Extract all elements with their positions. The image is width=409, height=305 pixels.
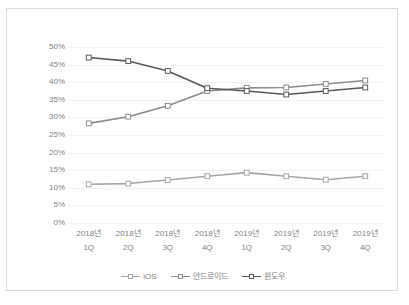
legend-line-marker-icon — [121, 273, 140, 280]
y-axis-tick-label: 35% — [11, 96, 65, 104]
data-point-marker — [86, 182, 91, 187]
gridline — [69, 223, 385, 224]
x-axis-tick-label: 2019년3Q — [304, 227, 348, 255]
x-tick-year: 2018년 — [67, 227, 111, 241]
y-axis-tick-label: 50% — [11, 43, 65, 51]
data-point-marker — [126, 59, 131, 64]
data-point-marker — [86, 121, 91, 126]
x-tick-quarter: 2Q — [106, 241, 150, 255]
data-point-marker — [165, 178, 170, 183]
legend-item-1[interactable]: iOS — [121, 272, 156, 281]
data-point-marker — [323, 177, 328, 182]
data-point-marker — [284, 92, 289, 97]
data-point-marker — [323, 82, 328, 87]
data-point-marker — [363, 174, 368, 179]
x-tick-year: 2019년 — [304, 227, 348, 241]
chart-plot-wrapper: 50%45%40%35%30%25%20%15%10%5%0% 2018년1Q2… — [7, 9, 399, 292]
series-1 — [86, 170, 367, 186]
data-point-marker — [284, 85, 289, 90]
x-tick-quarter: 3Q — [304, 241, 348, 255]
chart-series-layer — [69, 47, 385, 223]
y-axis-tick-label: 40% — [11, 78, 65, 86]
x-tick-year: 2019년 — [264, 227, 308, 241]
y-axis-tick-label: 10% — [11, 184, 65, 192]
legend-line-marker-icon — [242, 273, 261, 280]
data-point-marker — [86, 55, 91, 60]
x-tick-year: 2019년 — [225, 227, 269, 241]
legend-item-2[interactable]: 안드로이드 — [171, 272, 228, 281]
data-point-marker — [165, 69, 170, 74]
x-tick-quarter: 4Q — [343, 241, 387, 255]
x-tick-quarter: 1Q — [67, 241, 111, 255]
legend-line-marker-icon — [171, 273, 190, 280]
chart-frame: 50%45%40%35%30%25%20%15%10%5%0% 2018년1Q2… — [6, 8, 398, 291]
x-axis-tick-labels: 2018년1Q2018년2Q2018년3Q2018년4Q2019년1Q2019년… — [69, 227, 385, 265]
x-tick-year: 2018년 — [185, 227, 229, 241]
data-point-marker — [126, 114, 131, 119]
data-point-marker — [126, 181, 131, 186]
chart-legend: iOS안드로이드윈도우 — [7, 267, 399, 285]
x-axis-tick-label: 2018년3Q — [146, 227, 190, 255]
y-axis-tick-label: 20% — [11, 149, 65, 157]
x-axis-tick-label: 2019년1Q — [225, 227, 269, 255]
y-axis-tick-label: 45% — [11, 61, 65, 69]
y-axis-tick-label: 5% — [11, 201, 65, 209]
y-axis-tick-labels: 50%45%40%35%30%25%20%15%10%5%0% — [11, 47, 65, 223]
x-tick-quarter: 2Q — [264, 241, 308, 255]
x-axis-tick-label: 2018년2Q — [106, 227, 150, 255]
data-point-marker — [284, 174, 289, 179]
x-axis-tick-label: 2019년2Q — [264, 227, 308, 255]
plot-area — [69, 47, 385, 223]
data-point-marker — [363, 85, 368, 90]
x-tick-year: 2018년 — [146, 227, 190, 241]
data-point-marker — [323, 89, 328, 94]
y-axis-tick-label: 0% — [11, 219, 65, 227]
data-point-marker — [244, 89, 249, 94]
x-tick-quarter: 3Q — [146, 241, 190, 255]
data-point-marker — [363, 78, 368, 83]
x-tick-year: 2019년 — [343, 227, 387, 241]
legend-item-3[interactable]: 윈도우 — [242, 272, 285, 281]
x-tick-quarter: 4Q — [185, 241, 229, 255]
series-2 — [86, 78, 367, 126]
legend-item-label: iOS — [143, 272, 156, 281]
x-tick-year: 2018년 — [106, 227, 150, 241]
legend-item-label: 윈도우 — [264, 272, 285, 281]
x-tick-quarter: 1Q — [225, 241, 269, 255]
data-point-marker — [165, 103, 170, 108]
y-axis-tick-label: 15% — [11, 166, 65, 174]
data-point-marker — [244, 170, 249, 175]
y-axis-tick-label: 25% — [11, 131, 65, 139]
data-point-marker — [205, 86, 210, 91]
x-axis-tick-label: 2018년1Q — [67, 227, 111, 255]
y-axis-tick-label: 30% — [11, 113, 65, 121]
data-point-marker — [205, 174, 210, 179]
series-3 — [86, 55, 367, 97]
legend-item-label: 안드로이드 — [193, 272, 228, 281]
x-axis-tick-label: 2018년4Q — [185, 227, 229, 255]
x-axis-tick-label: 2019년4Q — [343, 227, 387, 255]
